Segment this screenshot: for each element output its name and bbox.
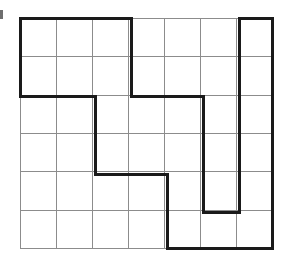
figure-background xyxy=(0,0,285,263)
grid-figure-container xyxy=(0,0,285,263)
left-edge-marker xyxy=(0,10,3,19)
grid-figure xyxy=(0,0,285,263)
